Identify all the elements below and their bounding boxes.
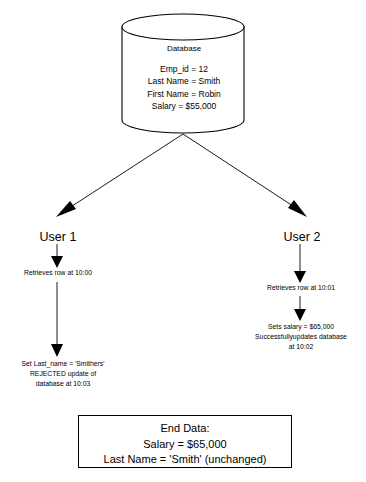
end-data-text: End Data: Salary = $65,000 Last Name = '… — [79, 421, 291, 468]
user1-arrow-retrieve — [51, 244, 63, 268]
user1-step-retrieve: Retrieves row at 10:00 — [4, 268, 112, 278]
user2-arrow-retrieve — [294, 244, 306, 283]
user2-step-update-success: Sets salary = $65,000 Successfullyupdate… — [240, 322, 362, 353]
user1-arrow-update — [51, 282, 63, 357]
user1-label: User 1 — [8, 230, 108, 246]
user2-step-retrieve: Retrieves row at 10:01 — [248, 283, 354, 293]
user2-label: User 2 — [252, 230, 352, 246]
database-title: Database — [123, 44, 245, 54]
database-record-fields: Emp_id = 12 Last Name = Smith First Name… — [118, 63, 250, 112]
diagram-canvas: Database Emp_id = 12 Last Name = Smith F… — [0, 0, 366, 482]
branch-arrow-to-user2 — [183, 134, 307, 217]
branch-arrow-to-user1 — [56, 134, 183, 217]
user2-arrow-update — [294, 296, 306, 321]
user1-step-update-rejected: Set Last_name = 'Smithers' REJECTED upda… — [4, 359, 122, 390]
